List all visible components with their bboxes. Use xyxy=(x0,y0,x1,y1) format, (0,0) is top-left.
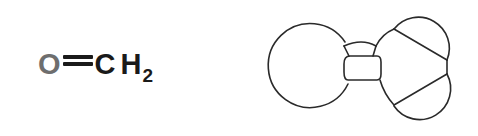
hydrogen-atom-upper xyxy=(394,17,449,60)
bond-tube-top xyxy=(344,42,376,46)
hydrogen-atom-lower xyxy=(394,74,451,120)
oxygen-atom-sphere xyxy=(268,24,348,108)
bond-tube xyxy=(344,56,381,80)
molecule-model xyxy=(0,0,478,136)
carbon-atom-sphere xyxy=(376,29,394,46)
